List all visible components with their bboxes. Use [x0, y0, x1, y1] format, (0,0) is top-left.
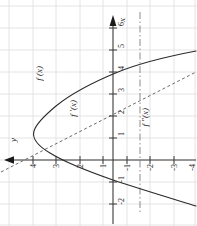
tick-label-x-6: 6: [117, 22, 126, 26]
tick-label-x-neg2: -2: [117, 198, 126, 205]
tick-label-x-4: 4: [117, 66, 126, 70]
tick-label-y-neg3: -3: [170, 164, 179, 171]
tick-label-x-1: 1: [117, 132, 126, 136]
f-prime-curve-label: f ′(x): [68, 100, 78, 117]
math-graph-figure: 6 5 4 3 2 1 -1 -2 4 3 2 1 -1 -2 -3 -4 x …: [0, 0, 197, 226]
tick-label-y-2: 2: [76, 164, 85, 168]
tick-label-y-neg4: -4: [188, 164, 197, 171]
tick-label-y-1: 1: [99, 164, 108, 168]
tick-label-x-3: 3: [117, 88, 126, 92]
plot-canvas: [0, 0, 197, 226]
tick-label-x-neg1: -1: [117, 176, 126, 183]
tick-label-y-4: 4: [29, 164, 38, 168]
x-axis-label: x: [117, 18, 127, 22]
f-curve-label: f (x): [34, 66, 44, 81]
f-double-prime-curve-label: f ″(x): [140, 108, 150, 127]
grid-lines: [0, 0, 197, 226]
tick-label-y-3: 3: [52, 164, 61, 168]
f-prime-curve: [1, 72, 196, 172]
x-axis-arrowhead: [110, 15, 117, 26]
tick-label-x-5: 5: [117, 44, 126, 48]
tick-label-y-neg2: -2: [146, 164, 155, 171]
y-axis-label: y: [8, 138, 18, 142]
f-curve: [34, 51, 196, 206]
tick-label-x-2: 2: [117, 110, 126, 114]
tick-label-y-neg1: -1: [123, 164, 132, 171]
